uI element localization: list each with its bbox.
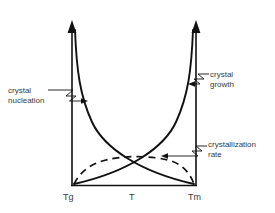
x-axis-tick-label-t: T (129, 192, 135, 202)
crystallization-rate-leader-squiggle (192, 146, 202, 156)
crystallization-rate-leader (161, 146, 207, 159)
crystallization-rate-label: crystallization rate (208, 140, 256, 159)
crystal-nucleation-label: crystal nucleation (8, 86, 44, 105)
x-axis-tick-label-tg: Tg (63, 192, 74, 202)
crystal-growth-label: crystal growth (210, 70, 234, 89)
crystal-nucleation-leader-squiggle (66, 90, 76, 101)
axes-group (68, 20, 201, 186)
crystal-growth-label-line1: crystal (210, 70, 234, 80)
crystal-growth-label-line2: growth (210, 80, 234, 90)
crystal-nucleation-label-line2: nucleation (8, 96, 44, 106)
crystallization-rate-label-line1: crystallization (208, 140, 256, 150)
crystal-nucleation-label-line1: crystal (8, 86, 44, 96)
x-axis-tick-label-tm: Tm (188, 192, 201, 202)
crystallization-rate-label-line2: rate (208, 150, 256, 160)
diagram-canvas (0, 0, 275, 213)
crystal-growth-leader (188, 74, 209, 87)
crystallization-kinetics-diagram: crystal nucleation crystal growth crysta… (0, 0, 275, 213)
